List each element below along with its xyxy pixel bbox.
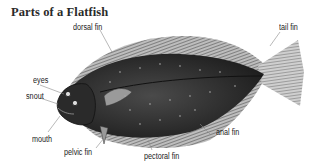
- label-anal-fin: anal fin: [216, 127, 239, 137]
- label-eyes: eyes: [33, 75, 48, 85]
- label-pelvic-fin: pelvic fin: [64, 147, 92, 157]
- label-tail-fin: tail fin: [279, 22, 298, 32]
- label-dorsal-fin: dorsal fin: [73, 22, 102, 32]
- label-mouth: mouth: [32, 134, 52, 144]
- leader-pelvic-fin: [96, 138, 104, 148]
- eye-lower: [72, 100, 77, 105]
- leader-dorsal-fin: [100, 30, 112, 52]
- label-snout: snout: [26, 91, 44, 101]
- tail-fin-shape: [258, 40, 304, 106]
- leader-tail-fin: [270, 32, 280, 46]
- label-pectoral-fin: pectoral fin: [144, 151, 179, 161]
- leader-mouth: [48, 116, 60, 132]
- eye-upper: [65, 91, 70, 96]
